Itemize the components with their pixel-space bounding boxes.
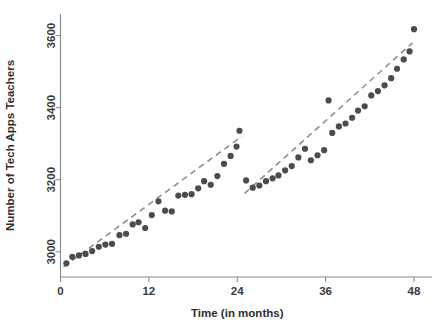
data-point xyxy=(325,97,331,103)
data-point xyxy=(175,192,181,198)
data-point xyxy=(302,146,308,152)
data-point xyxy=(295,154,301,160)
data-point xyxy=(195,185,201,191)
data-point xyxy=(201,178,207,184)
data-point xyxy=(236,128,242,134)
data-point xyxy=(411,26,417,32)
data-point xyxy=(394,66,400,72)
data-point xyxy=(155,198,161,204)
data-point xyxy=(228,153,234,159)
data-point xyxy=(182,192,188,198)
y-tick-label: 3000 xyxy=(45,239,57,265)
data-point xyxy=(375,88,381,94)
y-tick-label: 3600 xyxy=(45,23,57,49)
data-point xyxy=(243,177,249,183)
trend-line xyxy=(63,136,241,266)
data-point xyxy=(214,173,220,179)
data-point xyxy=(116,232,122,238)
trend-line xyxy=(245,43,413,194)
y-axis-title: Number of Tech Apps Teachers xyxy=(4,60,16,231)
data-point xyxy=(308,157,314,163)
data-point xyxy=(282,167,288,173)
data-point xyxy=(76,252,82,258)
data-point xyxy=(270,175,276,181)
data-point xyxy=(63,260,69,266)
data-point xyxy=(263,178,269,184)
data-point xyxy=(336,123,342,129)
data-point xyxy=(381,82,387,88)
data-point xyxy=(102,241,108,247)
data-point xyxy=(135,219,141,225)
x-tick-label: 24 xyxy=(231,285,244,297)
data-point xyxy=(69,254,75,260)
data-point xyxy=(89,248,95,254)
data-point xyxy=(96,244,102,250)
data-point xyxy=(142,225,148,231)
data-point xyxy=(162,208,168,214)
data-point xyxy=(82,251,88,257)
x-tick-group: 012243648 xyxy=(57,277,421,297)
y-tick-label: 3200 xyxy=(45,167,57,193)
data-point xyxy=(208,182,214,188)
data-point xyxy=(406,48,412,54)
chart-canvas: 3000320034003600 012243648 Time (in mont… xyxy=(0,0,434,333)
data-point xyxy=(314,152,320,158)
data-point xyxy=(250,185,256,191)
data-point xyxy=(368,92,374,98)
data-point xyxy=(256,182,262,188)
x-axis-title: Time (in months) xyxy=(191,307,284,319)
x-tick-label: 48 xyxy=(408,285,421,297)
data-point-group xyxy=(63,26,417,266)
x-tick-label: 36 xyxy=(319,285,332,297)
scatter-chart: 3000320034003600 012243648 Time (in mont… xyxy=(0,0,434,333)
data-point xyxy=(289,163,295,169)
data-point xyxy=(362,103,368,109)
data-point xyxy=(388,75,394,81)
x-tick-label: 12 xyxy=(142,285,155,297)
data-point xyxy=(109,241,115,247)
data-point xyxy=(275,172,281,178)
x-tick-label: 0 xyxy=(57,285,63,297)
data-point xyxy=(355,107,361,113)
data-point xyxy=(149,212,155,218)
data-point xyxy=(188,191,194,197)
data-point xyxy=(169,208,175,214)
y-axis: 3000320034003600 xyxy=(45,14,61,277)
data-point xyxy=(123,231,129,237)
data-point xyxy=(349,115,355,121)
data-point xyxy=(342,120,348,126)
data-point xyxy=(329,130,335,136)
data-point xyxy=(130,221,136,227)
data-point xyxy=(321,147,327,153)
y-tick-label: 3400 xyxy=(45,95,57,121)
trend-line-group xyxy=(63,43,412,267)
data-point xyxy=(233,143,239,149)
data-point xyxy=(221,161,227,167)
y-tick-group: 3000320034003600 xyxy=(45,23,61,265)
data-point xyxy=(401,56,407,62)
x-axis: 012243648 xyxy=(57,277,432,297)
